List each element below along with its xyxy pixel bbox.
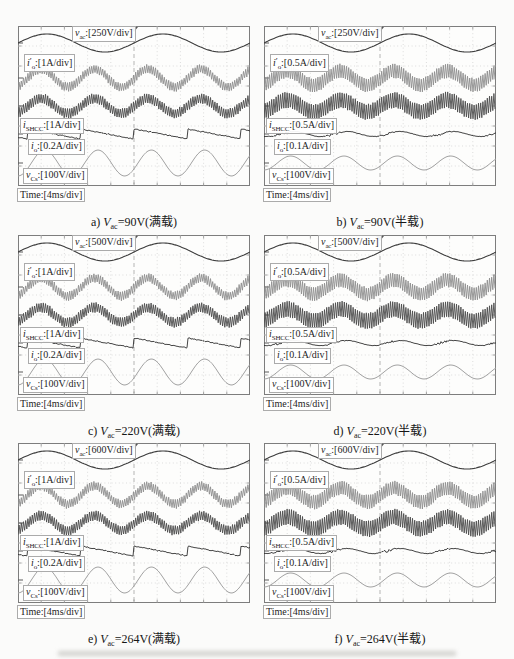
label-scale: :[600V/div] [331, 444, 378, 455]
timebase-label: Time:[4ms/div] [17, 605, 85, 619]
trace-label-vac: vac:[250V/div] [318, 26, 382, 42]
label-subscript: SHCC [26, 334, 44, 342]
trace-label-vcs: vCs:[100V/div] [23, 377, 88, 393]
label-scale: :[1A/div] [43, 536, 80, 547]
caption-subscript: ac [354, 431, 361, 440]
caption-prefix: b) [337, 215, 350, 229]
label-scale: :[0.1A/div] [283, 557, 328, 568]
label-scale: :[500V/div] [331, 236, 378, 247]
trace-label-vcs: vCs:[100V/div] [269, 168, 334, 184]
trace-label-ishcc: iSHCC:[0.5A/div] [266, 118, 337, 134]
trace-label-io: io:[0.1A/div] [274, 556, 331, 572]
timebase-label: Time:[4ms/div] [263, 605, 331, 619]
caption-value: =264V(半载) [360, 632, 425, 646]
timebase-label: Time:[4ms/div] [17, 397, 85, 411]
label-scale: :[0.2A/div] [37, 140, 82, 151]
label-scale: :[1A/div] [43, 328, 80, 339]
label-scale: :[500V/div] [85, 236, 132, 247]
scope-screenshot: vac:[250V/div] i′o:[1A/div] iSHCC:[1A/di… [18, 26, 250, 186]
label-scale: :[100V/div] [37, 378, 84, 389]
caption-value: =90V(半载) [364, 215, 423, 229]
caption-value: =220V(满载) [115, 424, 180, 438]
trace-label-vac: vac:[500V/div] [318, 235, 382, 251]
caption-variable: V [347, 424, 354, 438]
panel-caption: b) Vac=90V(半载) [264, 212, 496, 231]
caption-prefix: c) [88, 424, 100, 438]
caption-subscript: ac [108, 639, 115, 648]
label-scale: :[0.5A/div] [289, 536, 334, 547]
label-scale: :[0.2A/div] [37, 557, 82, 568]
timebase-label: Time:[4ms/div] [263, 397, 331, 411]
label-subscript: SHCC [272, 334, 290, 342]
caption-variable: V [100, 424, 107, 438]
trace-label-vac: vac:[500V/div] [72, 235, 136, 251]
panel-caption: e) Vac=264V(满载) [18, 629, 250, 648]
trace-label-io: io:[0.2A/div] [28, 139, 85, 155]
scope-panel: vac:[600V/div] i′o:[1A/div] iSHCC:[1A/di… [18, 443, 250, 649]
trace-label-io-prime: i′o:[1A/div] [24, 471, 75, 489]
trace-label-io-prime: i′o:[1A/div] [24, 263, 75, 281]
caption-subscript: ac [111, 222, 118, 231]
scope-screenshot: vac:[500V/div] i′o:[1A/div] iSHCC:[1A/di… [18, 235, 250, 395]
label-scale: :[0.1A/div] [283, 140, 328, 151]
label-scale: :[1A/div] [35, 57, 72, 68]
trace-label-vac: vac:[600V/div] [72, 443, 136, 459]
caption-value: =220V(半载) [361, 424, 426, 438]
caption-variable: V [103, 215, 110, 229]
trace-label-vcs: vCs:[100V/div] [269, 585, 334, 601]
label-scale: :[1A/div] [35, 474, 72, 485]
caption-value: =264V(满载) [115, 632, 180, 646]
label-scale: :[0.2A/div] [37, 349, 82, 360]
trace-label-vcs: vCs:[100V/div] [23, 168, 88, 184]
timebase-label: Time:[4ms/div] [17, 188, 85, 202]
panel-caption: c) Vac=220V(满载) [18, 421, 250, 440]
caption-prefix: f) [335, 632, 346, 646]
label-scale: :[100V/div] [283, 586, 330, 597]
panel-caption: a) Vac=90V(满载) [18, 212, 250, 231]
scope-screenshot: vac:[600V/div] i′o:[1A/div] iSHCC:[1A/di… [18, 443, 250, 603]
trace-label-ishcc: iSHCC:[0.5A/div] [266, 327, 337, 343]
caption-variable: V [346, 632, 353, 646]
caption-prefix: a) [91, 215, 103, 229]
cropped-caption-strip [58, 651, 456, 656]
label-scale: :[600V/div] [85, 444, 132, 455]
label-scale: :[100V/div] [283, 169, 330, 180]
label-scale: :[0.5A/div] [281, 57, 326, 68]
trace-label-io-prime: i′o:[0.5A/div] [270, 471, 329, 489]
caption-value: =90V(满载) [118, 215, 177, 229]
panel-caption: f) Vac=264V(半载) [264, 629, 496, 648]
trace-label-io: io:[0.1A/div] [274, 348, 331, 364]
scope-panel: vac:[600V/div] i′o:[0.5A/div] iSHCC:[0.5… [264, 443, 496, 649]
trace-label-ishcc: iSHCC:[1A/div] [20, 118, 84, 134]
label-scale: :[0.5A/div] [281, 474, 326, 485]
waveform-plot [18, 235, 250, 395]
scope-panel: vac:[250V/div] i′o:[1A/div] iSHCC:[1A/di… [18, 26, 250, 232]
label-scale: :[0.5A/div] [281, 266, 326, 277]
timebase-label: Time:[4ms/div] [263, 188, 331, 202]
trace-label-vac: vac:[250V/div] [72, 26, 136, 42]
trace-label-io-prime: i′o:[1A/div] [24, 54, 75, 72]
waveform-plot [18, 443, 250, 603]
label-subscript: SHCC [272, 542, 290, 550]
trace-label-io: io:[0.2A/div] [28, 348, 85, 364]
label-scale: :[0.5A/div] [289, 328, 334, 339]
trace-label-vac: vac:[600V/div] [318, 443, 382, 459]
scope-panel: vac:[500V/div] i′o:[1A/div] iSHCC:[1A/di… [18, 235, 250, 441]
caption-subscript: ac [108, 431, 115, 440]
trace-label-io-prime: i′o:[0.5A/div] [270, 54, 329, 72]
label-scale: :[100V/div] [283, 378, 330, 389]
label-subscript: SHCC [272, 125, 290, 133]
caption-variable: V [350, 215, 357, 229]
label-scale: :[250V/div] [85, 27, 132, 38]
label-scale: :[100V/div] [37, 586, 84, 597]
waveform-plot [264, 235, 496, 395]
label-scale: :[0.5A/div] [289, 119, 334, 130]
trace-label-io: io:[0.1A/div] [274, 139, 331, 155]
trace-label-ishcc: iSHCC:[1A/div] [20, 535, 84, 551]
caption-prefix: d) [334, 424, 347, 438]
trace-label-vcs: vCs:[100V/div] [23, 585, 88, 601]
caption-subscript: ac [357, 222, 364, 231]
label-scale: :[0.1A/div] [283, 349, 328, 360]
panel-caption: d) Vac=220V(半载) [264, 421, 496, 440]
scope-screenshot: vac:[600V/div] i′o:[0.5A/div] iSHCC:[0.5… [264, 443, 496, 603]
